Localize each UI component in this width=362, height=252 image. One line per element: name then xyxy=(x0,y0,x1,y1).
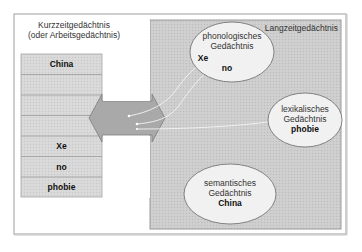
phonological-item-no: no xyxy=(212,63,242,73)
slot-7: phobie xyxy=(21,182,102,192)
lexical-label-line2: Gedächtnis xyxy=(268,114,342,124)
memory-diagram: Kurzzeitgedächtnis (oder Arbeitsgedächtn… xyxy=(0,0,362,252)
short-term-title-line2: (oder Arbeitsgedächtnis) xyxy=(20,30,128,40)
lexical-label-line1: lexikalisches xyxy=(268,104,342,114)
slot-6: no xyxy=(21,162,102,172)
phonological-item-xe: Xe xyxy=(188,53,218,63)
semantic-label-line2: Gedächtnis xyxy=(190,188,270,198)
semantic-label-line1: semantisches xyxy=(190,178,270,188)
phonological-label-line1: phonologisches xyxy=(192,31,272,41)
semantic-item-china: China xyxy=(190,198,270,208)
long-term-title: Langzeitgedächtnis xyxy=(262,23,338,33)
slot-1: China xyxy=(21,59,102,69)
short-term-stack xyxy=(21,54,102,197)
lexical-item-phobie: phobie xyxy=(268,124,342,134)
short-term-title-line1: Kurzzeitgedächtnis xyxy=(20,20,128,30)
slot-5: Xe xyxy=(21,141,102,151)
phonological-label-line2: Gedächtnis xyxy=(192,41,272,51)
